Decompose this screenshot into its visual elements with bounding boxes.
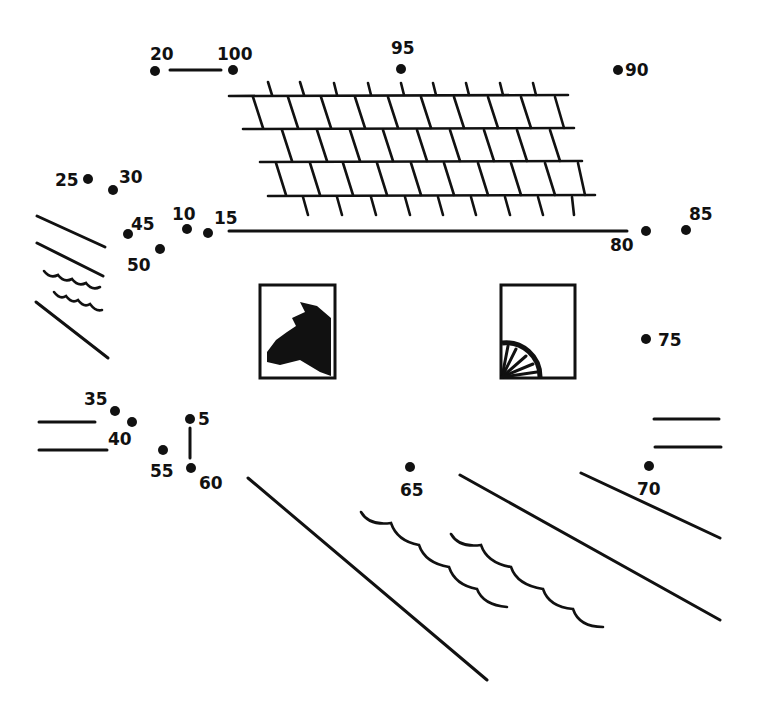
dot-number-label: 90 xyxy=(625,60,649,80)
dot-number-label: 95 xyxy=(391,38,415,58)
dot-marker[interactable] xyxy=(182,224,192,234)
dot-marker[interactable] xyxy=(110,406,120,416)
roof-shingles xyxy=(229,82,595,215)
dot-marker[interactable] xyxy=(155,244,165,254)
dot-number-label: 10 xyxy=(172,204,196,224)
dot-marker[interactable] xyxy=(613,65,623,75)
cow-head-silhouette xyxy=(267,302,331,376)
dot-70[interactable]: 70 xyxy=(637,461,661,499)
dot-25[interactable]: 25 xyxy=(55,170,93,190)
dot-45[interactable]: 45 xyxy=(123,214,155,239)
dot-75[interactable]: 75 xyxy=(641,330,682,350)
dot-40[interactable]: 40 xyxy=(108,417,137,449)
dot-number-label: 45 xyxy=(131,214,155,234)
dot-marker[interactable] xyxy=(108,185,118,195)
dot-marker[interactable] xyxy=(405,462,415,472)
dot-marker[interactable] xyxy=(83,174,93,184)
dot-number-label: 100 xyxy=(217,44,253,64)
dot-number-label: 25 xyxy=(55,170,79,190)
dot-number-label: 85 xyxy=(689,204,713,224)
dot-to-dot-worksheet: 5101520253035404550556065707580859095100 xyxy=(0,0,757,725)
dot-30[interactable]: 30 xyxy=(108,167,143,195)
dot-number-label: 60 xyxy=(199,473,223,493)
cow-window xyxy=(260,285,335,378)
dot-95[interactable]: 95 xyxy=(391,38,415,74)
right-field xyxy=(654,419,721,447)
dot-number-label: 65 xyxy=(400,480,424,500)
dot-35[interactable]: 35 xyxy=(84,389,120,416)
dot-number-label: 20 xyxy=(150,44,174,64)
dot-number-label: 35 xyxy=(84,389,108,409)
dot-number-label: 50 xyxy=(127,255,151,275)
dot-number-label: 15 xyxy=(214,208,238,228)
dot-number-label: 55 xyxy=(150,461,174,481)
dot-65[interactable]: 65 xyxy=(400,462,424,500)
dot-marker[interactable] xyxy=(641,334,651,344)
dot-marker[interactable] xyxy=(158,445,168,455)
dot-marker[interactable] xyxy=(185,414,195,424)
left-field xyxy=(36,216,108,450)
numbered-dots: 5101520253035404550556065707580859095100 xyxy=(55,38,713,500)
dot-number-label: 75 xyxy=(658,330,682,350)
dot-55[interactable]: 55 xyxy=(150,445,174,481)
dot-number-label: 80 xyxy=(610,235,634,255)
dot-number-label: 40 xyxy=(108,429,132,449)
dot-10[interactable]: 10 xyxy=(172,204,196,234)
dot-90[interactable]: 90 xyxy=(613,60,649,80)
dot-marker[interactable] xyxy=(186,463,196,473)
dot-marker[interactable] xyxy=(203,228,213,238)
dot-marker[interactable] xyxy=(150,66,160,76)
dot-number-label: 70 xyxy=(637,479,661,499)
dot-marker[interactable] xyxy=(396,64,406,74)
dot-60[interactable]: 60 xyxy=(186,463,223,493)
dot-marker[interactable] xyxy=(228,65,238,75)
dot-marker[interactable] xyxy=(644,461,654,471)
dot-5[interactable]: 5 xyxy=(185,409,210,429)
dot-85[interactable]: 85 xyxy=(681,204,713,235)
dot-50[interactable]: 50 xyxy=(127,244,165,275)
dot-marker[interactable] xyxy=(127,417,137,427)
dot-marker[interactable] xyxy=(641,226,651,236)
dot-number-label: 30 xyxy=(119,167,143,187)
dot-number-label: 5 xyxy=(198,409,210,429)
wheel-window xyxy=(501,285,575,378)
bottom-field xyxy=(248,473,720,680)
dot-marker[interactable] xyxy=(681,225,691,235)
dot-15[interactable]: 15 xyxy=(203,208,238,238)
